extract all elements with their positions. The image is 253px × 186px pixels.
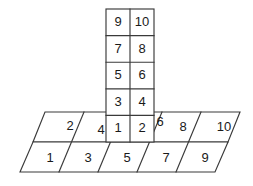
base-back-cell-2-label: 6	[156, 114, 163, 129]
tower-cell-6-label: 6	[138, 67, 145, 82]
tower-cell-7-label: 7	[114, 41, 121, 56]
diagram-canvas: 2 4 6 8 10 1 3 5 7 9 9 10	[0, 0, 253, 186]
tower-cell-9-label: 9	[114, 14, 121, 29]
numbered-tower-diagram: 2 4 6 8 10 1 3 5 7 9 9 10	[0, 0, 253, 186]
tower-cell-1-label: 1	[114, 120, 121, 135]
tower-cell-8-label: 8	[138, 41, 145, 56]
base-front-cell-3-label: 7	[162, 150, 169, 165]
tower-cell-10-label: 10	[135, 14, 149, 29]
base-front-cell-0-label: 1	[46, 150, 53, 165]
base-back-cell-3-label: 8	[179, 119, 186, 134]
base-back-cell-4-label: 10	[217, 119, 231, 134]
tower-cell-2-label: 2	[138, 120, 145, 135]
base-front-cell-2-label: 5	[123, 150, 130, 165]
tower-cell-5-label: 5	[114, 67, 121, 82]
base-front-cell-1-label: 3	[84, 150, 91, 165]
base-front-cell-4-label: 9	[201, 150, 208, 165]
base-back-cell-1-label: 4	[97, 122, 104, 137]
tower-cell-3-label: 3	[114, 94, 121, 109]
tower-cell-4-label: 4	[138, 94, 145, 109]
base-back-cell-0-label: 2	[66, 118, 73, 133]
